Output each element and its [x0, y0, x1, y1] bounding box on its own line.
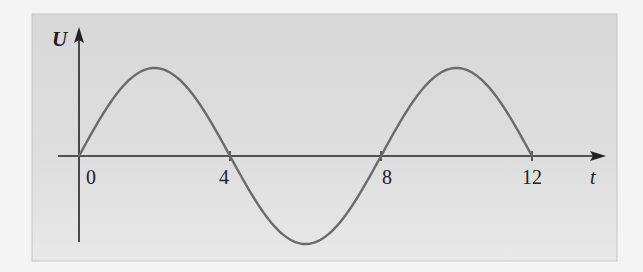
- x-tick-label: 8: [382, 166, 392, 188]
- plot-panel: [32, 14, 617, 261]
- x-tick-label: 0: [86, 166, 96, 188]
- x-tick-label: 4: [219, 166, 229, 188]
- x-axis-label: t: [590, 166, 596, 188]
- y-axis-label: U: [52, 27, 69, 51]
- x-tick-label: 12: [522, 166, 542, 188]
- sine-chart: U t 04812: [0, 0, 643, 272]
